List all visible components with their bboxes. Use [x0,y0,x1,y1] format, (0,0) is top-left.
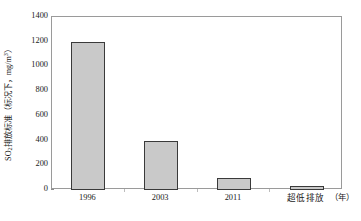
x-axis-unit-label: （年） [330,194,354,202]
y-axis-tick-label: 0 [14,185,48,193]
bar-1996 [71,42,105,190]
y-axis-tick-label: 400 [14,135,48,143]
plot-area [51,16,342,189]
bar-2011 [217,178,251,190]
y-axis-tick-label: 600 [14,111,48,119]
chart-figure: SO2排放标准（标况下，mg/m3） 020040060080010001200… [0,0,361,221]
y-axis-tick-label: 1000 [14,61,48,69]
x-axis-tick-label: 2003 [152,194,169,202]
bar-超低排放 [290,186,324,190]
x-axis-tick-label: 1996 [79,194,96,202]
x-axis-tick-mark [197,189,198,192]
x-axis-tick-mark [269,189,270,192]
x-axis-tick-mark [124,189,125,192]
x-axis-tick-label: 超低排放 [287,194,324,203]
y-axis-tick-mark [51,189,54,190]
y-axis-tick-label: 1200 [14,37,48,45]
y-axis-title-prefix: SO [4,150,13,160]
y-axis-tick-label: 800 [14,86,48,94]
y-axis-tick-label: 1400 [14,12,48,20]
y-axis-title-text: SO2排放标准（标况下，mg/m3） [3,45,13,161]
y-axis-tick-label: 200 [14,160,48,168]
y-axis-title-suffix: ） [4,45,13,53]
y-axis-title-middle: 排放标准（标况下，mg/m [4,56,13,147]
x-axis-tick-label: 2011 [225,194,241,202]
bar-2003 [144,141,178,190]
